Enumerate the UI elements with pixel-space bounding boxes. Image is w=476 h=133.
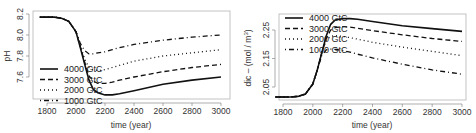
x-tick-label: 2000 [67,106,86,116]
dic-chart: 1800200022002400260028003000 2.052.152.2… [243,13,472,130]
dic-x-axis: 1800200022002400260028003000 [274,104,472,117]
legend-label: 2000 GtC [64,85,103,95]
dic-series-group [276,19,463,97]
x-tick-label: 2400 [363,107,382,117]
series-line-1000-gtc [40,17,221,54]
x-tick-label: 2200 [333,107,352,117]
y-tick-label: 7.6 [15,71,25,83]
dic-y-axis-title: dic – (mol / m3) [243,29,253,86]
chart-figure: 1800200022002400260028003000 7.67.88.08.… [0,0,476,133]
y-tick-label: 2.05 [261,78,271,95]
x-tick-label: 2200 [96,106,115,116]
ph-plot-frame [33,11,230,99]
x-tick-label: 2000 [303,107,322,117]
y-tick-label: 2.25 [261,21,271,38]
x-tick-label: 2600 [393,107,412,117]
dic-x-axis-title: time (year) [352,120,393,130]
series-line-3000-gtc [276,27,463,97]
dic-plot-frame [279,14,466,100]
x-tick-label: 3000 [453,107,472,117]
y-tick-label: 7.8 [15,50,25,62]
dic-y-axis: 2.052.152.25 [261,21,275,95]
y-tick-label: 2.15 [261,50,271,67]
x-tick-label: 2600 [154,106,173,116]
series-line-1000-gtc [276,49,463,97]
legend-label: 3000 GtC [64,75,103,85]
ph-chart: 1800200022002400260028003000 7.67.88.08.… [2,8,231,130]
series-line-2000-gtc [40,17,221,71]
legend-label: 1000 GtC [309,45,348,55]
x-tick-label: 1800 [274,107,293,117]
x-tick-label: 2800 [183,106,202,116]
x-tick-label: 3000 [212,106,231,116]
legend-label: 4000 GtC [64,64,103,74]
ph-y-axis: 7.67.88.08.2 [15,8,29,83]
x-tick-label: 2800 [423,107,442,117]
ph-y-axis-title: pH [2,51,12,62]
dic-legend: 4000 GtC3000 GtC2000 GtC1000 GtC [285,13,348,55]
series-line-2000-gtc [276,36,463,97]
legend-label: 1000 GtC [64,96,103,106]
ph-x-axis-title: time (year) [111,120,152,130]
x-tick-label: 1800 [38,106,57,116]
x-tick-label: 2400 [125,106,144,116]
y-tick-label: 8.2 [15,8,25,20]
legend-label: 4000 GtC [309,13,348,23]
legend-label: 3000 GtC [309,24,348,34]
legend-label: 2000 GtC [309,34,348,44]
y-tick-label: 8.0 [15,29,25,41]
